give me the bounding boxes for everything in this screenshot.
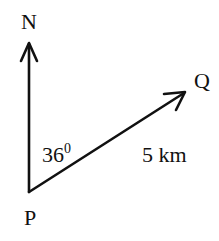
angle-degree-mark: 0	[64, 141, 71, 156]
distance-label: 5 km	[142, 142, 187, 167]
bearing-diagram: N Q 360 5 km P	[0, 0, 219, 241]
angle-label: 360	[42, 141, 71, 167]
north-label: N	[21, 9, 37, 34]
end-point-label: Q	[194, 68, 210, 93]
start-point-label: P	[24, 205, 36, 230]
north-arrow	[21, 43, 37, 192]
angle-value: 36	[42, 142, 64, 167]
